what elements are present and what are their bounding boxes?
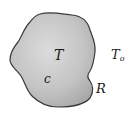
label-heat-capacity: c bbox=[44, 73, 51, 85]
ambient-temp-subscript: o bbox=[120, 54, 125, 63]
label-ambient-temperature: To bbox=[111, 48, 125, 63]
blob-outline bbox=[10, 13, 95, 107]
lumped-body-diagram: T c R To bbox=[0, 0, 131, 122]
ambient-temp-base: T bbox=[111, 47, 120, 62]
label-body-temperature: T bbox=[54, 48, 63, 62]
label-resistance: R bbox=[96, 82, 106, 95]
